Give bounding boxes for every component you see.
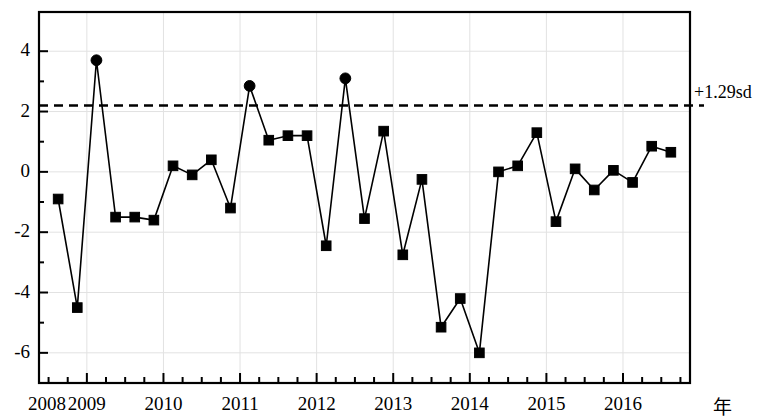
data-point-square xyxy=(187,170,197,180)
x-tick-label: 2012 xyxy=(282,393,352,415)
data-point-square xyxy=(72,303,82,313)
data-point-square xyxy=(360,214,370,224)
data-point-square xyxy=(513,161,523,171)
y-tick-label: 0 xyxy=(0,160,30,182)
x-tick-label: 2014 xyxy=(435,393,505,415)
data-point-square xyxy=(53,194,63,204)
chart-plot-svg xyxy=(0,0,757,419)
data-point-square xyxy=(130,212,140,222)
chart-figure: 420-2-4-6 200820092010201120122013201420… xyxy=(0,0,757,419)
data-point-square xyxy=(666,147,676,157)
data-point-square xyxy=(436,322,446,332)
data-point-square xyxy=(551,217,561,227)
series-polyline xyxy=(58,60,671,353)
frame-rect xyxy=(39,12,690,383)
data-point-square xyxy=(647,141,657,151)
data-point-square xyxy=(264,135,274,145)
data-point-square xyxy=(149,215,159,225)
data-point-square xyxy=(283,131,293,141)
x-tick-label: 2011 xyxy=(205,393,275,415)
data-point-square xyxy=(379,126,389,136)
data-point-square xyxy=(589,185,599,195)
data-point-square xyxy=(321,241,331,251)
x-tick-label: 2009 xyxy=(52,393,122,415)
data-point-square xyxy=(609,166,619,176)
y-tick-label: -2 xyxy=(0,220,30,242)
series-line xyxy=(58,60,671,353)
data-point-circle xyxy=(340,73,351,84)
data-point-square xyxy=(398,250,408,260)
data-point-square xyxy=(111,212,121,222)
data-point-circle xyxy=(91,55,102,66)
data-point-square xyxy=(226,203,236,213)
y-tick-label: 2 xyxy=(0,100,30,122)
plot-frame xyxy=(39,12,690,383)
data-point-square xyxy=(168,161,178,171)
x-tick-label: 2013 xyxy=(358,393,428,415)
y-tick-label: -6 xyxy=(0,341,30,363)
data-point-square xyxy=(455,294,465,304)
data-point-square xyxy=(570,164,580,174)
x-tick-label: 2010 xyxy=(128,393,198,415)
data-point-square xyxy=(475,348,485,358)
x-axis-unit-label: 年 xyxy=(713,392,732,419)
x-tick-label: 2015 xyxy=(511,393,581,415)
data-point-circle xyxy=(244,81,255,92)
data-point-square xyxy=(417,175,427,185)
data-point-square xyxy=(207,155,217,165)
data-point-square xyxy=(302,131,312,141)
y-tick-label: -4 xyxy=(0,281,30,303)
y-tick-label: 4 xyxy=(0,39,30,61)
series-markers xyxy=(53,55,675,358)
data-point-square xyxy=(494,167,504,177)
x-tick-label: 2016 xyxy=(588,393,658,415)
data-point-square xyxy=(532,128,542,138)
threshold-label: +1.29sd xyxy=(694,82,752,103)
grid-layer xyxy=(39,12,690,383)
data-point-square xyxy=(628,178,638,188)
